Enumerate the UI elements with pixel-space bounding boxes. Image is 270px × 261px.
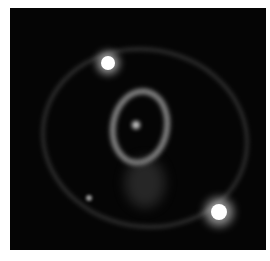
bright-star-lower [211, 204, 227, 220]
bright-star-upper [101, 56, 115, 70]
astronomical-image [10, 8, 266, 250]
ring-glow [125, 158, 165, 208]
faint-star [86, 195, 92, 201]
central-star [132, 121, 140, 129]
